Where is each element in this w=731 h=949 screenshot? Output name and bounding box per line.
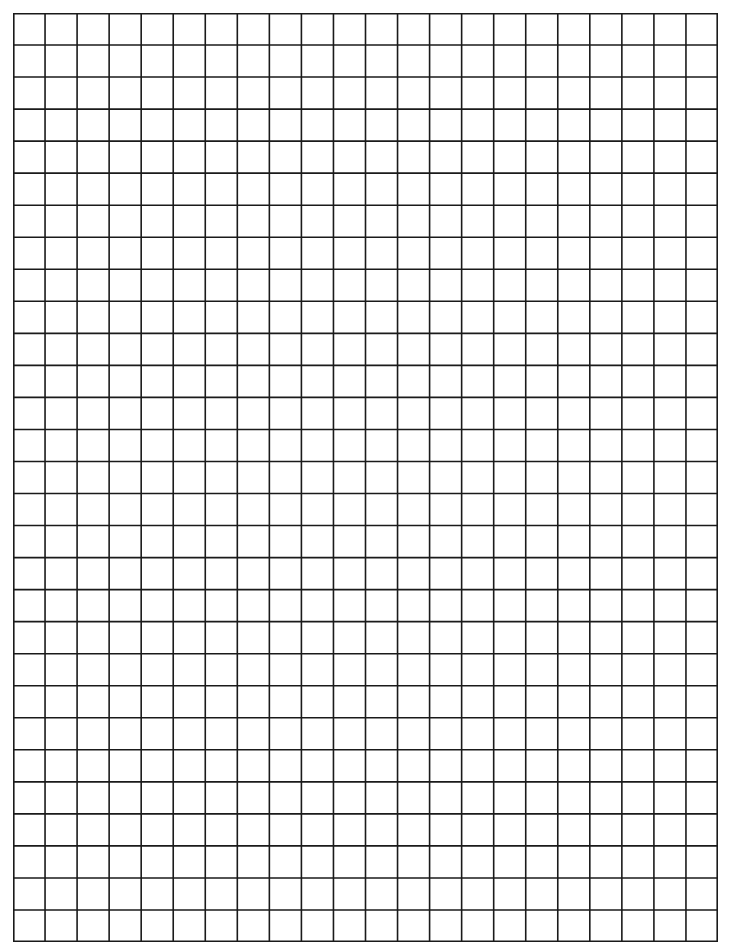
graph-paper-grid (13, 13, 718, 942)
grid-lines (13, 13, 718, 942)
